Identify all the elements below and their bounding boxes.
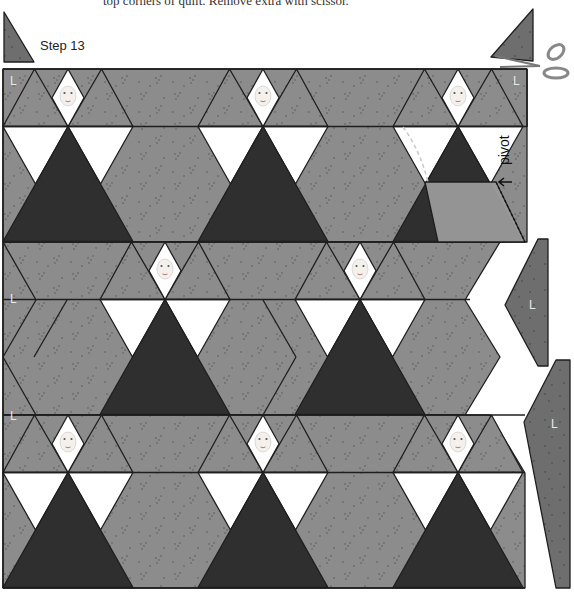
face-eye-right <box>70 92 72 94</box>
face-eye-right <box>167 265 169 267</box>
face-skin <box>60 432 76 452</box>
face-0-2 <box>450 86 466 106</box>
face-1-1 <box>352 259 368 279</box>
scissor-handle <box>544 68 568 78</box>
face-2-1 <box>255 432 271 452</box>
quilt-diagram: LLLLLL <box>0 0 574 595</box>
face-eye-left <box>258 92 260 94</box>
loose-piece-lower <box>524 360 570 588</box>
piece-label-l: L <box>10 409 17 423</box>
scissor-blade <box>500 66 540 67</box>
face-eye-right <box>265 92 267 94</box>
face-1-0 <box>157 259 173 279</box>
piece-label-l: L <box>529 298 536 312</box>
face-eye-left <box>453 438 455 440</box>
loose-piece-upper <box>505 239 548 366</box>
step-triangle-icon <box>4 12 34 62</box>
face-2-0 <box>60 432 76 452</box>
face-0-0 <box>60 86 76 106</box>
face-eye-right <box>70 438 72 440</box>
face-eye-left <box>160 265 162 267</box>
scissor-handle <box>545 42 567 63</box>
face-skin <box>60 86 76 106</box>
face-skin <box>450 86 466 106</box>
face-eye-right <box>265 438 267 440</box>
piece-label-l: L <box>10 292 17 306</box>
face-eye-right <box>362 265 364 267</box>
piece-label-l: L <box>10 74 17 88</box>
face-eye-left <box>63 92 65 94</box>
face-eye-right <box>460 92 462 94</box>
face-skin <box>255 432 271 452</box>
face-skin <box>255 86 271 106</box>
face-eye-left <box>63 438 65 440</box>
face-eye-left <box>258 438 260 440</box>
face-eye-left <box>453 92 455 94</box>
face-eye-right <box>460 438 462 440</box>
pivot-label: pivot <box>496 135 512 165</box>
quilt-band-b <box>3 242 500 415</box>
face-skin <box>157 259 173 279</box>
face-skin <box>450 432 466 452</box>
face-2-2 <box>450 432 466 452</box>
piece-label-l: L <box>513 74 520 88</box>
face-eye-left <box>355 265 357 267</box>
cut-triangle <box>491 9 533 61</box>
face-skin <box>352 259 368 279</box>
piece-label-l: L <box>551 417 558 431</box>
face-0-1 <box>255 86 271 106</box>
